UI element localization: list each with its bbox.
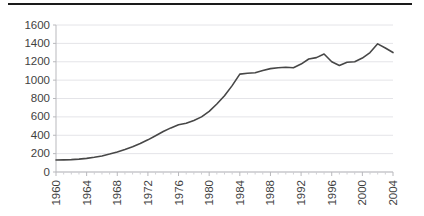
y-axis-label-0: 0 bbox=[44, 166, 50, 178]
x-axis-label-1960: 1960 bbox=[50, 180, 62, 206]
chart-canvas: 02004006008001000120014001600 1960196419… bbox=[0, 10, 424, 216]
x-axis-label-1988: 1988 bbox=[264, 180, 276, 206]
y-axis-label-400: 400 bbox=[31, 129, 50, 141]
y-axis-label-1200: 1200 bbox=[24, 55, 50, 67]
y-axis-tick-labels: 02004006008001000120014001600 bbox=[24, 19, 50, 178]
x-axis-tick-marks bbox=[56, 172, 393, 176]
x-axis-label-1976: 1976 bbox=[173, 180, 185, 206]
line-chart: 02004006008001000120014001600 1960196419… bbox=[0, 10, 424, 216]
chart-figure: 02004006008001000120014001600 1960196419… bbox=[0, 0, 424, 216]
y-axis-label-1400: 1400 bbox=[24, 37, 50, 49]
x-axis-label-1972: 1972 bbox=[142, 180, 154, 206]
top-horizontal-rule bbox=[8, 3, 412, 5]
x-axis-label-1964: 1964 bbox=[81, 179, 93, 205]
y-axis-label-1000: 1000 bbox=[24, 74, 50, 86]
y-axis-label-200: 200 bbox=[31, 147, 50, 159]
y-axis-label-1600: 1600 bbox=[24, 19, 50, 31]
x-axis-label-2004: 2004 bbox=[387, 179, 399, 205]
x-axis-label-2000: 2000 bbox=[356, 180, 368, 206]
x-axis-tick-labels: 1960196419681972197619801984198819921996… bbox=[50, 179, 399, 205]
y-axis-label-800: 800 bbox=[31, 92, 50, 104]
y-axis-label-600: 600 bbox=[31, 110, 50, 122]
x-axis-label-1968: 1968 bbox=[111, 180, 123, 206]
x-axis-label-1984: 1984 bbox=[234, 179, 246, 205]
x-axis-label-1980: 1980 bbox=[203, 180, 215, 206]
x-axis-label-1996: 1996 bbox=[326, 180, 338, 206]
x-axis-label-1992: 1992 bbox=[295, 180, 307, 206]
